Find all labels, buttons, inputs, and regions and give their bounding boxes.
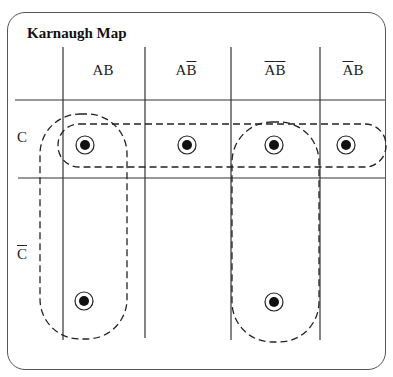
marker-c-abbar [178, 136, 196, 154]
marker-c-ab [76, 136, 94, 154]
grid-lines [15, 47, 385, 340]
marker-cbar-abarbbar [265, 293, 283, 311]
marker-c-abarbbar [265, 136, 283, 154]
karnaugh-grid [0, 0, 393, 377]
marker-c-abarb [337, 136, 355, 154]
marker-cbar-ab [75, 292, 93, 310]
cell-markers [75, 136, 355, 311]
